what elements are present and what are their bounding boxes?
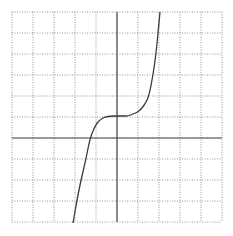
cubic-graph bbox=[0, 0, 233, 236]
